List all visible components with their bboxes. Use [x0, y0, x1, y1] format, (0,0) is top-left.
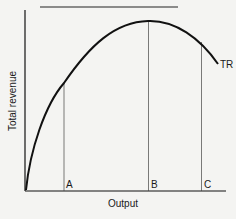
y-axis-label: Total revenue	[8, 66, 18, 136]
point-c-label: C	[204, 180, 211, 190]
tr-label: TR	[220, 60, 233, 70]
point-b-label: B	[151, 180, 158, 190]
point-a-label: A	[66, 180, 73, 190]
x-axis-label: Output	[108, 199, 138, 209]
tr-curve	[26, 21, 218, 190]
total-revenue-chart	[0, 0, 236, 219]
